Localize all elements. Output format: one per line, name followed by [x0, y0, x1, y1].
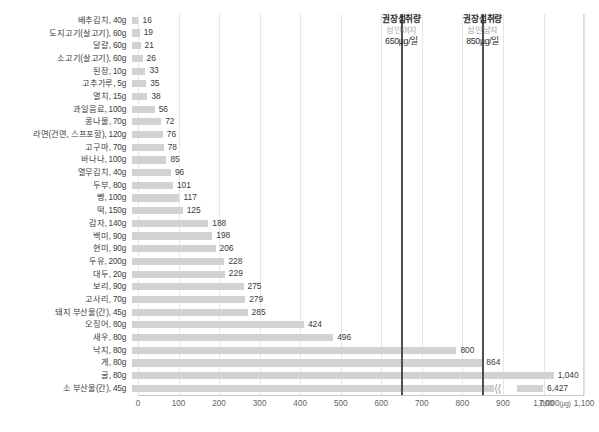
vitamin-a-food-bar-chart: 배추김치, 40g16도지고기(살고기), 60g19달걀, 60g21소고기(…	[0, 0, 599, 432]
bar-row: 과일음료, 100g56	[0, 103, 599, 116]
category-label: 게, 80g	[0, 358, 132, 367]
bar-value-label: 6,427	[547, 384, 568, 393]
bar-value-label: 864	[486, 358, 500, 367]
category-label: 고추가루, 5g	[0, 79, 132, 88]
category-label: 바나나, 100g	[0, 155, 132, 164]
bar	[132, 106, 155, 113]
bar-track: 78	[132, 141, 599, 154]
bar-segment-right	[517, 385, 543, 392]
bar-row: 돼지 부산물(간), 45g285	[0, 306, 599, 319]
bar-row: 바나나, 100g85	[0, 154, 599, 167]
bar-value-label: 72	[165, 117, 174, 126]
category-label: 멸치, 15g	[0, 92, 132, 101]
bar-value-label: 800	[460, 346, 474, 355]
bar-row: 빵, 100g117	[0, 192, 599, 205]
bar-row: 대두, 20g229	[0, 268, 599, 281]
bar	[132, 347, 456, 354]
category-label: 달걀, 60g	[0, 41, 132, 50]
category-label: 과일음료, 100g	[0, 105, 132, 114]
bar-track: 33	[132, 65, 599, 78]
bar	[132, 232, 212, 239]
axis-break-icon: ⟨⟨	[494, 382, 508, 395]
bar	[132, 29, 140, 36]
category-label: 굴, 80g	[0, 371, 132, 380]
bar-row: 열무김치, 40g96	[0, 166, 599, 179]
bar-value-label: 38	[151, 92, 160, 101]
bar-track: 38	[132, 90, 599, 103]
bar-value-label: 117	[183, 193, 196, 202]
category-label: 배추김치, 40g	[0, 16, 132, 25]
x-tick-1100: 1,100	[574, 399, 595, 408]
bar	[132, 220, 208, 227]
bar-value-label: 19	[144, 28, 153, 37]
bar	[132, 55, 143, 62]
bar-row: 멸치, 15g38	[0, 90, 599, 103]
bar-track: 35	[132, 77, 599, 90]
bar-row: 새우, 80g496	[0, 331, 599, 344]
bar-segment-left	[132, 385, 494, 392]
category-label: 백미, 90g	[0, 232, 132, 241]
category-label: 빵, 100g	[0, 193, 132, 202]
bar-value-label: 96	[175, 168, 184, 177]
bar-value-label: 229	[229, 269, 243, 278]
bar-row: 고구마, 70g78	[0, 141, 599, 154]
bar-value-label: 56	[159, 105, 168, 114]
bar-track: 206	[132, 242, 599, 255]
x-tick-100: 100	[172, 399, 186, 408]
bar	[132, 334, 333, 341]
bar	[132, 245, 216, 252]
bar-track: 96	[132, 166, 599, 179]
x-tick-600: 600	[374, 399, 388, 408]
bar	[132, 80, 146, 87]
x-tick-400: 400	[293, 399, 307, 408]
bar-row: 두유, 200g228	[0, 255, 599, 268]
bar-track: 125	[132, 204, 599, 217]
bar-row: 소 부산물(간), 45g⟨⟨6,427	[0, 382, 599, 395]
bar-value-label: 26	[147, 54, 156, 63]
category-label: 낙지, 80g	[0, 346, 132, 355]
bar	[132, 271, 225, 278]
bar-value-label: 188	[212, 219, 226, 228]
bar	[132, 68, 145, 75]
category-label: 새우, 80g	[0, 333, 132, 342]
bar-row: 게, 80g864	[0, 357, 599, 370]
bar-track: 117	[132, 192, 599, 205]
annotation-title: 권장섭취량	[440, 14, 526, 25]
bar-value-label: 16	[142, 16, 151, 25]
bar-value-label: 101	[177, 181, 191, 190]
annotation-subtitle: 성인남자	[440, 25, 526, 36]
category-label: 콩나물, 70g	[0, 117, 132, 126]
category-label: 고사리, 70g	[0, 295, 132, 304]
category-label: 고구마, 70g	[0, 143, 132, 152]
annotation-amount: 850µg/일	[440, 36, 526, 47]
bar-track: 85	[132, 154, 599, 167]
x-tick-200: 200	[212, 399, 226, 408]
bar-track: 496	[132, 331, 599, 344]
bar-row: 콩나물, 70g72	[0, 116, 599, 129]
bar	[132, 17, 138, 24]
bar	[132, 93, 147, 100]
bar-track: 864	[132, 357, 599, 370]
bar-value-label: 35	[150, 79, 159, 88]
bar-row: 소고기(살고기), 60g26	[0, 52, 599, 65]
bar-track: 279	[132, 293, 599, 306]
bar-value-label: 275	[248, 282, 262, 291]
bar-value-label: 33	[149, 66, 158, 75]
bar-row: 낙지, 80g800	[0, 344, 599, 357]
bar-value-label: 78	[168, 143, 177, 152]
x-tick-500: 500	[334, 399, 348, 408]
bar	[132, 194, 179, 201]
annotation-850: 권장섭취량성인남자850µg/일	[440, 14, 526, 47]
bar	[132, 372, 554, 379]
bar-value-label: 21	[145, 41, 154, 50]
category-label: 도지고기(살고기), 60g	[0, 29, 132, 38]
category-label: 오징어, 80g	[0, 320, 132, 329]
x-tick-700: 700	[415, 399, 429, 408]
bar-row: 두부, 80g101	[0, 179, 599, 192]
category-label: 두부, 80g	[0, 181, 132, 190]
bar-value-label: 285	[252, 308, 266, 317]
bar	[132, 309, 248, 316]
bar-row: 감자, 140g188	[0, 217, 599, 230]
x-tick-800: 800	[456, 399, 470, 408]
category-label: 두유, 200g	[0, 257, 132, 266]
